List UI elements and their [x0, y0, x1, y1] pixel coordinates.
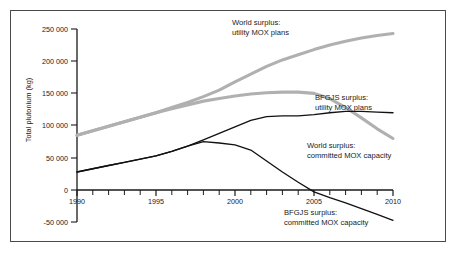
annotation-line: committed MOX capacity — [307, 151, 392, 160]
x-tick-label: 2010 — [385, 197, 401, 206]
y-tick-label: 50 000 — [46, 154, 68, 163]
y-tick-label: 0 — [64, 186, 68, 195]
series-line-world-utility-mox — [77, 34, 393, 136]
y-axis-ticks — [71, 29, 77, 222]
x-tick-label: 1995 — [148, 197, 164, 206]
annotation-line: World surplus: — [232, 18, 280, 27]
annotation-line: utility MOX plans — [232, 28, 289, 37]
annotation-world-committed-mox: World surplus: committed MOX capacity — [307, 141, 392, 160]
y-tick-label: 200 000 — [42, 57, 68, 66]
y-axis-tick-labels: 250 000 200 000 150 000 100 000 50 000 0… — [42, 25, 68, 227]
y-tick-label: 250 000 — [42, 25, 68, 34]
annotation-bfgjs-committed-mox: BFGJS surplus: committed MOX capacity — [284, 208, 369, 227]
y-tick-label: -50 000 — [44, 218, 68, 227]
annotation-line: utility MOX plans — [315, 103, 372, 112]
y-tick-label: 100 000 — [42, 121, 68, 130]
x-tick-label: 2005 — [306, 197, 322, 206]
annotation-world-utility-mox: World surplus: utility MOX plans — [232, 18, 289, 37]
annotation-line: World surplus: — [307, 141, 355, 150]
annotation-line: BFGJS surplus: — [315, 93, 368, 102]
annotation-bfgjs-utility-mox: BFGJS surplus: utility MOX plans — [315, 93, 372, 112]
x-tick-label: 1990 — [69, 197, 85, 206]
annotation-line: committed MOX capacity — [284, 218, 369, 227]
chart-figure: 250 000 200 000 150 000 100 000 50 000 0… — [0, 0, 458, 254]
y-axis-title: Total plutonium (kg) — [24, 78, 33, 143]
annotation-line: BFGJS surplus: — [284, 208, 337, 217]
plutonium-surplus-line-chart: 250 000 200 000 150 000 100 000 50 000 0… — [0, 0, 458, 254]
x-tick-label: 2000 — [227, 197, 243, 206]
y-tick-label: 150 000 — [42, 89, 68, 98]
